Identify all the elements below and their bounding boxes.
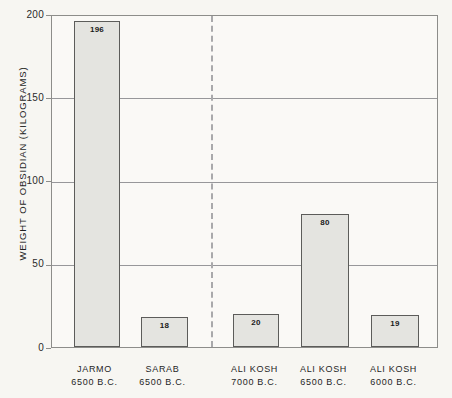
bar-ali-kosh-6500bc[interactable]: 80 bbox=[301, 214, 349, 347]
bar-ali-kosh-6000bc[interactable]: 19 bbox=[371, 315, 419, 347]
bar-ali-kosh-7000bc[interactable]: 20 bbox=[233, 314, 279, 347]
plot-area: 196 18 20 80 19 bbox=[51, 15, 438, 348]
bar-value-label: 20 bbox=[234, 318, 278, 327]
x-tick-site-name: SARAB bbox=[120, 363, 205, 376]
group-divider-dashed-line bbox=[211, 16, 213, 347]
bar-value-label: 18 bbox=[142, 321, 187, 330]
y-tick-label-0: 0 bbox=[0, 343, 44, 353]
y-tick-label-200: 200 bbox=[0, 10, 44, 20]
bar-sarab-6500bc[interactable]: 18 bbox=[141, 317, 188, 347]
x-tick-ali-kosh-6000bc: ALI KOSH 6000 B.C. bbox=[351, 363, 436, 389]
bar-value-label: 196 bbox=[75, 25, 119, 34]
x-tick-sarab-6500bc: SARAB 6500 B.C. bbox=[120, 363, 205, 389]
x-tick-site-date: 6500 B.C. bbox=[120, 376, 205, 389]
y-tick-mark-0 bbox=[46, 348, 51, 349]
bar-value-label: 80 bbox=[302, 218, 348, 227]
bar-jarmo-6500bc[interactable]: 196 bbox=[74, 21, 120, 347]
bar-value-label: 19 bbox=[372, 319, 418, 328]
x-tick-site-date: 6000 B.C. bbox=[351, 376, 436, 389]
obsidian-weight-bar-chart: 200 150 100 50 0 WEIGHT OF OBSIDIAN (KIL… bbox=[0, 0, 452, 398]
y-axis-title: WEIGHT OF OBSIDIAN (KILOGRAMS) bbox=[17, 54, 28, 274]
x-tick-site-name: ALI KOSH bbox=[351, 363, 436, 376]
